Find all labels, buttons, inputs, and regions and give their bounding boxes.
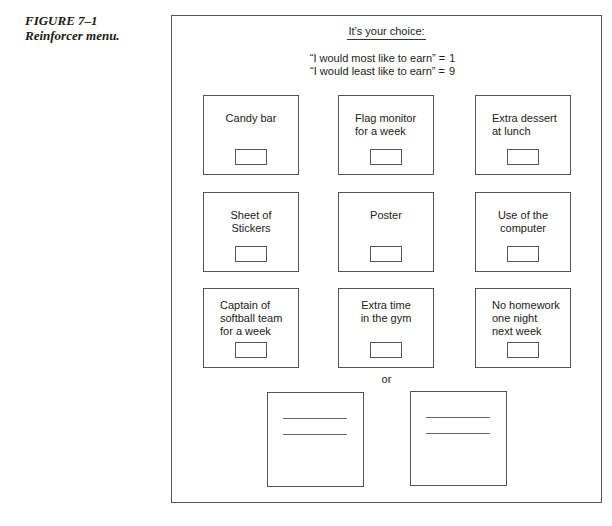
ranking-scale: “I would most like to earn” =1 “I would … <box>172 52 601 78</box>
item-label: No homework one night next week <box>492 299 570 338</box>
scale-row-least: “I would least like to earn” =9 <box>172 65 601 78</box>
write-in-line[interactable] <box>283 418 347 419</box>
figure-number: FIGURE 7–1 <box>25 13 120 28</box>
write-in-line[interactable] <box>426 433 490 434</box>
rank-input-box[interactable] <box>370 149 402 165</box>
write-in-box <box>410 391 507 486</box>
write-in-line[interactable] <box>426 417 490 418</box>
rank-input-box[interactable] <box>235 342 267 358</box>
scale-value: 1 <box>445 52 463 65</box>
item-label: Extra dessert at lunch <box>492 112 570 138</box>
item-label: Poster <box>339 209 433 222</box>
rank-input-box[interactable] <box>507 149 539 165</box>
figure-caption: FIGURE 7–1 Reinforcer menu. <box>25 13 120 43</box>
item-label: Candy bar <box>204 112 298 125</box>
reinforcer-item: Extra time in the gym <box>338 288 434 368</box>
scale-value: 9 <box>445 65 463 78</box>
rank-input-box[interactable] <box>370 342 402 358</box>
rank-input-box[interactable] <box>235 246 267 262</box>
menu-title: It’s your choice: <box>172 25 601 38</box>
write-in-box <box>267 392 364 487</box>
menu-title-text: It’s your choice: <box>347 25 425 40</box>
reinforcer-item: Sheet of Stickers <box>203 192 299 272</box>
or-separator: or <box>172 373 601 386</box>
scale-row-most: “I would most like to earn” =1 <box>172 52 601 65</box>
write-in-line[interactable] <box>283 434 347 435</box>
rank-input-box[interactable] <box>370 246 402 262</box>
rank-input-box[interactable] <box>507 246 539 262</box>
item-label: Flag monitor for a week <box>355 112 433 138</box>
reinforcer-item: Flag monitor for a week <box>338 95 434 175</box>
rank-input-box[interactable] <box>507 342 539 358</box>
rank-input-box[interactable] <box>235 149 267 165</box>
reinforcer-item: Captain of softball team for a week <box>203 288 299 368</box>
reinforcer-item: Extra dessert at lunch <box>475 95 571 175</box>
scale-text: “I would most like to earn” = <box>310 52 445 64</box>
reinforcer-item: Use of the computer <box>475 192 571 272</box>
reinforcer-menu-form: It’s your choice: “I would most like to … <box>171 15 602 503</box>
scale-text: “I would least like to earn” = <box>310 65 445 77</box>
item-label: Extra time in the gym <box>339 299 433 325</box>
figure-title: Reinforcer menu. <box>25 28 120 43</box>
item-label: Use of the computer <box>476 209 570 235</box>
reinforcer-item: Poster <box>338 192 434 272</box>
reinforcer-item: Candy bar <box>203 95 299 175</box>
item-label: Sheet of Stickers <box>204 209 298 235</box>
item-label: Captain of softball team for a week <box>220 299 298 338</box>
reinforcer-item: No homework one night next week <box>475 288 571 368</box>
